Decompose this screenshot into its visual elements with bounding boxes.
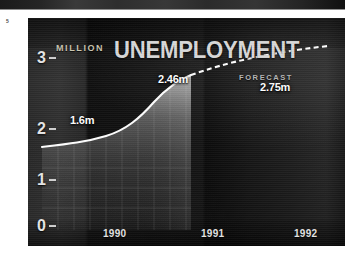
area-fill-shade xyxy=(42,68,194,230)
data-callout-start: 1.6m xyxy=(70,114,94,126)
data-callout-mid: 2.46m xyxy=(158,73,188,85)
x-tick-label-1990: 1990 xyxy=(103,228,126,239)
page-canvas: 5 xyxy=(0,0,345,256)
x-tick-label-1991: 1991 xyxy=(201,228,224,239)
data-callout-end: 2.75m xyxy=(260,81,290,93)
page-number-marker: 5 xyxy=(6,18,9,24)
y-tick-label-1: 1 xyxy=(28,171,46,189)
area-fill-group xyxy=(42,68,194,230)
page-title: UNEMPLOYMENT xyxy=(114,37,299,64)
adjacent-frame-strip xyxy=(0,0,345,10)
y-tick-label-0: 0 xyxy=(28,217,46,235)
y-axis-unit-label: MILLION xyxy=(56,43,104,53)
y-tick-label-3: 3 xyxy=(28,49,46,67)
x-tick-label-1992: 1992 xyxy=(294,228,317,239)
unemployment-chart-graphic: MILLION UNEMPLOYMENT FORECAST 3 2 1 0 19… xyxy=(28,18,345,246)
y-tick-label-2: 2 xyxy=(28,120,46,138)
